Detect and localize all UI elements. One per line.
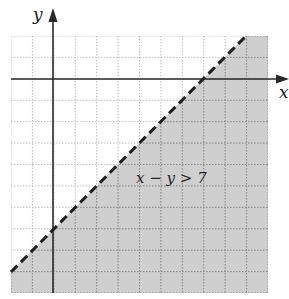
y-axis-label: y (32, 4, 43, 24)
x-axis-label: x (279, 82, 289, 102)
y-axis-arrow-icon (49, 8, 58, 22)
inequality-graph: y x x − y > 7 (0, 0, 289, 299)
inequality-label: x − y > 7 (136, 169, 207, 187)
